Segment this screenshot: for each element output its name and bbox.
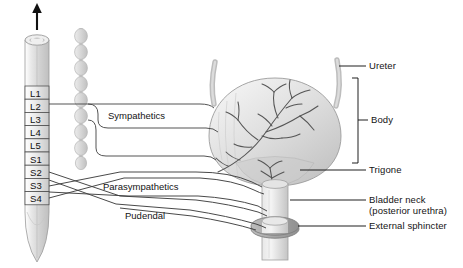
nerve-label-sympathetics: Sympathetics	[108, 110, 165, 121]
segment-label-s2: S2	[30, 167, 42, 178]
up-arrow-icon	[32, 3, 42, 30]
bladder-neck-primary: Bladder neck	[369, 194, 426, 205]
segment-label-l2: L2	[30, 101, 41, 112]
segment-label-s1: S1	[30, 154, 42, 165]
nerve-label-pudendal: Pudendal	[125, 210, 165, 221]
anatomy-label-external-sphincter: External sphincter	[369, 220, 447, 231]
segment-label-l4: L4	[30, 127, 41, 138]
anatomy-label-trigone: Trigone	[369, 164, 402, 175]
anatomy-label-ureter: Ureter	[369, 60, 396, 71]
segment-label-s3: S3	[30, 180, 42, 191]
sympathetic-chain	[75, 28, 88, 170]
segment-label-l3: L3	[30, 114, 41, 125]
external-sphincter-ring	[251, 217, 299, 238]
segment-label-l1: L1	[30, 88, 41, 99]
anatomy-label-body: Body	[371, 114, 393, 125]
segment-label-s4: S4	[30, 193, 42, 204]
segment-label-l5: L5	[30, 140, 41, 151]
nerve-label-parasympathetics: Parasympathetics	[103, 181, 179, 192]
diagram-canvas: L1 L2 L3 L4 L5 S1 S2 S3 S4 Sympathetics …	[0, 0, 463, 268]
anatomy-label-bladder-neck: Bladder neck (posterior urethra)	[369, 194, 447, 216]
bladder-neck-secondary: (posterior urethra)	[369, 205, 447, 216]
